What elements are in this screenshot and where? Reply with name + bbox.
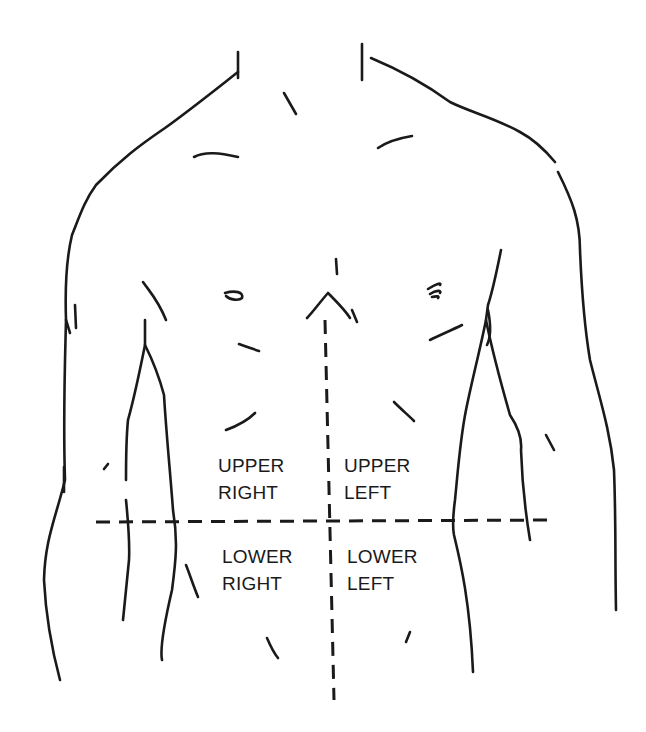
torso-diagram — [0, 0, 646, 732]
vertical-midline-divider — [325, 320, 334, 700]
left-clavicle-mark — [378, 136, 412, 148]
right-lower-rib-mark — [226, 413, 255, 430]
quadrant-upper-left-line2: LEFT — [344, 479, 410, 506]
quadrant-label-upper-right: UPPER RIGHT — [218, 452, 284, 506]
right-axilla-line — [143, 282, 166, 320]
quadrant-lower-right-line1: LOWER — [222, 543, 293, 570]
left-flank-mark — [546, 435, 554, 450]
right-flank-mark — [186, 565, 198, 597]
quadrant-label-lower-right: LOWER RIGHT — [222, 543, 293, 597]
quadrant-lower-right-line2: RIGHT — [222, 570, 293, 597]
left-inguinal-mark — [406, 632, 410, 642]
right-rib-mark — [239, 344, 259, 351]
left-shoulder-outline — [371, 58, 616, 610]
right-shoulder-outline — [44, 72, 238, 680]
right-torso-outline — [123, 320, 145, 620]
xiphoid-small-mark — [352, 310, 357, 322]
quadrant-label-upper-left: UPPER LEFT — [344, 452, 410, 506]
left-lower-rib-mark — [394, 402, 414, 421]
sternal-notch-mark — [284, 93, 296, 114]
right-clavicle-mark — [194, 153, 238, 157]
quadrant-label-lower-left: LOWER LEFT — [347, 543, 418, 597]
left-rib-mark — [430, 325, 462, 340]
right-arm-inner-line — [75, 305, 76, 328]
left-nipple — [428, 284, 440, 298]
quadrant-upper-right-line2: RIGHT — [218, 479, 284, 506]
horizontal-divider — [96, 520, 555, 522]
xiphoid-mark — [307, 293, 350, 318]
right-small-mark — [104, 464, 108, 469]
quadrant-upper-right-line1: UPPER — [218, 452, 284, 479]
quadrant-upper-left-line1: UPPER — [344, 452, 410, 479]
left-torso-side-line — [486, 320, 530, 540]
quadrant-lower-left-line2: LEFT — [347, 570, 418, 597]
right-inguinal-mark — [267, 638, 278, 658]
sternum-mark — [336, 259, 337, 274]
right-torso-side-line — [145, 345, 176, 660]
quadrant-lower-left-line1: LOWER — [347, 543, 418, 570]
right-nipple — [225, 292, 242, 300]
left-torso-outline — [453, 250, 501, 672]
